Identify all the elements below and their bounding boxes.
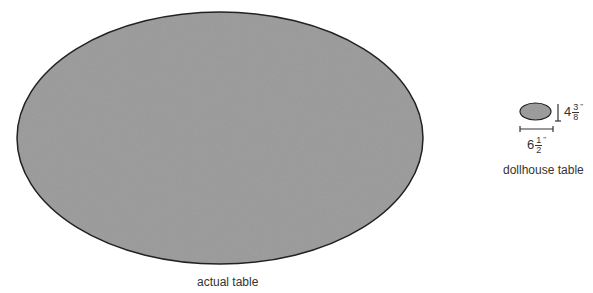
width-whole: 6: [527, 137, 534, 152]
actual-table-label: actual table: [197, 275, 258, 289]
height-dimension-bar: [555, 104, 561, 121]
width-unit: ": [543, 135, 546, 144]
height-unit: ": [580, 102, 583, 111]
dollhouse-table-label: dollhouse table: [503, 163, 584, 177]
height-fraction: 38: [572, 103, 579, 122]
dollhouse-table-ellipse: [520, 103, 551, 120]
height-whole: 4: [564, 104, 571, 119]
actual-table-ellipse: [17, 12, 423, 264]
height-dimension-label: 438": [564, 103, 583, 122]
diagram-canvas: [0, 0, 593, 293]
width-dimension-bar: [520, 126, 553, 132]
width-denominator: 2: [536, 146, 541, 155]
width-fraction: 12: [535, 136, 542, 155]
width-dimension-label: 612": [527, 136, 546, 155]
height-denominator: 8: [573, 113, 578, 122]
